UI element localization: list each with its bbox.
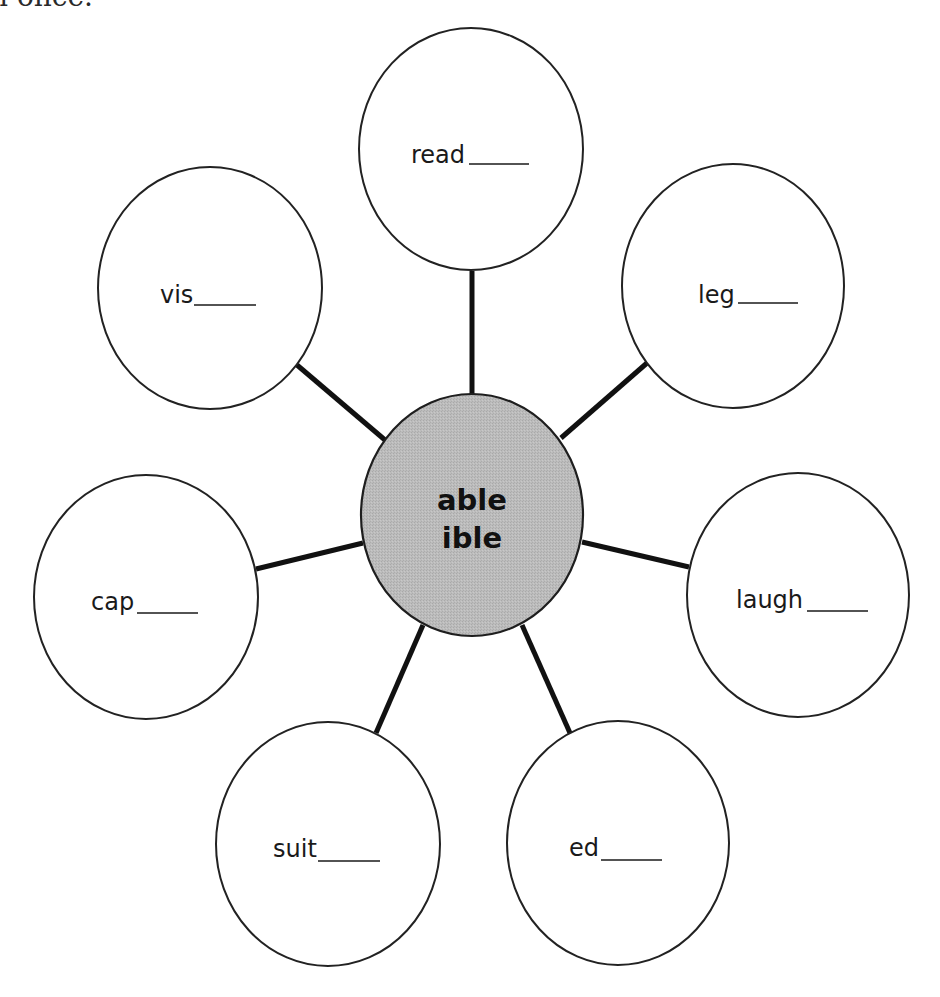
leaf-node-ed: ed [507,721,729,965]
word-web-diagram: able ible read leg laugh ed suit cap [0,0,940,997]
leaf-stem-vis: vis [160,281,193,309]
leaf-ellipse [507,721,729,965]
connector-leg [561,363,647,438]
connector-cap [256,543,363,569]
connector-ed [522,625,570,733]
center-label-line-1: able [437,483,507,517]
leaf-node-vis: vis [98,167,322,409]
leaf-stem-cap: cap [91,588,134,616]
leaf-ellipse [98,167,322,409]
leaf-node-suit: suit [216,722,440,966]
leaf-node-leg: leg [622,164,844,408]
leaf-node-cap: cap [34,475,258,719]
leaf-stem-laugh: laugh [736,586,803,614]
connector-vis [297,365,385,440]
leaf-node-laugh: laugh [687,473,909,717]
connector-suit [376,625,423,733]
leaf-ellipse [359,28,583,270]
connector-laugh [582,542,689,567]
leaf-ellipse [34,475,258,719]
leaf-ellipse [216,722,440,966]
center-label-line-2: ible [442,521,502,555]
center-node: able ible [361,394,583,636]
leaf-stem-ed: ed [569,834,599,862]
leaf-stem-leg: leg [698,281,735,309]
leaf-node-read: read [359,28,583,270]
leaf-stem-read: read [411,141,465,169]
leaf-stem-suit: suit [273,835,317,863]
